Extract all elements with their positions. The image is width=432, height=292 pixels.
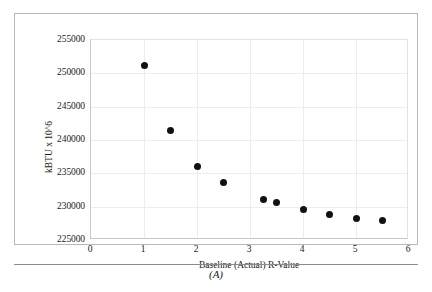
y-axis-tick-label: 235000 <box>25 167 85 177</box>
scatter-point <box>260 196 267 203</box>
x-axis-tick-label: 5 <box>340 244 370 255</box>
scatter-point <box>326 211 333 218</box>
gridline-vertical <box>144 40 145 238</box>
gridline-vertical <box>356 40 357 238</box>
x-axis-tick-label: 1 <box>128 244 158 255</box>
scatter-point <box>273 199 280 206</box>
gridline-horizontal <box>91 173 407 174</box>
gridline-vertical <box>250 40 251 238</box>
scatter-point <box>167 127 174 134</box>
y-axis-tick-label: 240000 <box>25 134 85 144</box>
scatter-point <box>220 179 227 186</box>
scatter-point <box>353 215 360 222</box>
x-axis-tick-label: 0 <box>75 244 105 255</box>
y-axis-tick-label: 225000 <box>25 234 85 244</box>
x-axis-tick-labels: 0123456 <box>90 244 408 258</box>
y-axis-tick-label: 230000 <box>25 201 85 211</box>
scatter-point <box>379 217 386 224</box>
scatter-point <box>194 163 201 170</box>
gridline-horizontal <box>91 107 407 108</box>
gridline-vertical <box>197 40 198 238</box>
gridline-horizontal <box>91 207 407 208</box>
gridline-horizontal <box>91 73 407 74</box>
figure-container: kBTU x 10^6 2250002300002350002400002450… <box>0 0 432 292</box>
figure-caption: (A) <box>14 268 418 280</box>
caption-divider <box>14 264 418 265</box>
x-axis-tick-label: 6 <box>393 244 423 255</box>
chart-frame: kBTU x 10^6 2250002300002350002400002450… <box>14 13 418 245</box>
scatter-point <box>300 206 307 213</box>
x-axis-tick-label: 2 <box>181 244 211 255</box>
plot-area <box>90 39 408 239</box>
gridline-horizontal <box>91 140 407 141</box>
scatter-point <box>141 62 148 69</box>
y-axis-tick-label: 255000 <box>25 34 85 44</box>
y-axis-tick-label: 250000 <box>25 67 85 77</box>
y-axis-tick-labels: 2250002300002350002400002450002500002550… <box>21 39 85 239</box>
y-axis-tick-label: 245000 <box>25 101 85 111</box>
x-axis-tick-label: 3 <box>234 244 264 255</box>
x-axis-tick-label: 4 <box>287 244 317 255</box>
